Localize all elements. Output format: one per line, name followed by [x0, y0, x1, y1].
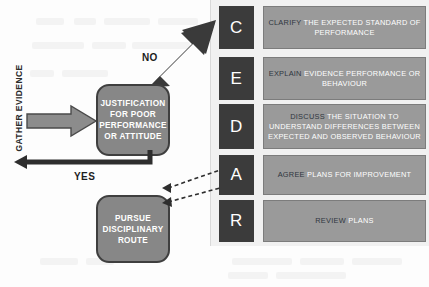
- pursue-disciplinary-box-label: PURSUE DISCIPLINARY ROUTE: [102, 213, 163, 246]
- cedar-letter-c: C: [219, 6, 254, 49]
- cedar-text-r: REVIEW PLANS: [263, 200, 426, 242]
- gather-evidence-arrow: [27, 106, 97, 136]
- cedar-keyword-e: EXPLAIN: [269, 69, 302, 78]
- cedar-letter-d: D: [219, 104, 254, 149]
- cedar-rest-e: EVIDENCE PERFORMANCE OR BEHAVIOUR: [302, 69, 421, 88]
- diagram-canvas: C CLARIFY THE EXPECTED STANDARD OF PERFO…: [0, 0, 429, 287]
- cedar-keyword-c: CLARIFY: [268, 18, 301, 27]
- cedar-row-e[interactable]: E EXPLAIN EVIDENCE PERFORMANCE OR BEHAVI…: [219, 57, 426, 100]
- cedar-text-e: EXPLAIN EVIDENCE PERFORMANCE OR BEHAVIOU…: [263, 57, 426, 100]
- cedar-text-d: DISCUSS THE SITUATION TO UNDERSTAND DIFF…: [263, 104, 426, 149]
- cedar-rest-a: PLANS FOR IMPROVEMENT: [305, 170, 412, 179]
- cedar-letter-a: A: [219, 155, 254, 195]
- no-branch-arrow: [148, 8, 220, 88]
- cedar-rest-r: PLANS: [346, 216, 374, 225]
- cedar-text-a: AGREE PLANS FOR IMPROVEMENT: [263, 155, 426, 195]
- cedar-rest-c: THE EXPECTED STANDARD OF PERFORMANCE: [301, 18, 420, 37]
- cedar-keyword-d: DISCUSS: [290, 112, 325, 121]
- cedar-letter-r: R: [219, 200, 254, 242]
- cedar-row-d[interactable]: D DISCUSS THE SITUATION TO UNDERSTAND DI…: [219, 104, 426, 149]
- gather-evidence-label: GATHER EVIDENCE: [14, 58, 24, 158]
- no-label: NO: [142, 52, 158, 63]
- justification-box[interactable]: JUSTIFICATION FOR POOR PERFORMANCE OR AT…: [96, 84, 170, 156]
- justification-box-label: JUSTIFICATION FOR POOR PERFORMANCE OR AT…: [99, 98, 166, 142]
- cedar-keyword-r: REVIEW: [315, 216, 346, 225]
- cedar-text-c: CLARIFY THE EXPECTED STANDARD OF PERFORM…: [263, 6, 426, 49]
- cedar-row-a[interactable]: A AGREE PLANS FOR IMPROVEMENT: [219, 155, 426, 195]
- cedar-row-c[interactable]: C CLARIFY THE EXPECTED STANDARD OF PERFO…: [219, 6, 426, 49]
- cedar-row-r[interactable]: R REVIEW PLANS: [219, 200, 426, 242]
- cedar-letter-e: E: [219, 57, 254, 100]
- disciplinary-cedar-dashed-connector: [158, 166, 224, 212]
- cedar-keyword-a: AGREE: [278, 170, 305, 179]
- yes-label: YES: [74, 171, 95, 182]
- cedar-panel: C CLARIFY THE EXPECTED STANDARD OF PERFO…: [210, 0, 429, 246]
